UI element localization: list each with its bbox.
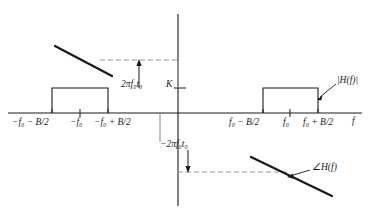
figure-vector-canvas [0,0,372,214]
annotation-negative-phase-value: −2πf₀t₀ [160,140,188,150]
xtick-label-f0-minus-b2: f₀ − B/2 [229,118,259,128]
xtick-label-f0: f₀ [283,118,289,128]
frequency-axis-label: f [352,117,355,127]
xtick-label-f0-plus-b2: f₀ + B/2 [303,118,333,128]
phase-line-negative-frequency [55,46,112,76]
annotation-gain-k: K [166,80,172,90]
leader-line-magnitude-callout [320,84,336,97]
annotation-magnitude-response: |H(f)| [337,76,358,86]
annotation-positive-phase-value: 2πf₀t₀ [121,80,142,90]
xtick-label-neg-f0-minus-b2: −f₀ − B/2 [12,118,49,128]
xtick-label-neg-f0-plus-b2: −f₀ + B/2 [94,118,131,128]
filter-response-figure: −f₀ − B/2 −f₀ −f₀ + B/2 f₀ − B/2 f₀ f₀ +… [0,0,372,214]
annotation-phase-response: ∠H(f) [312,163,337,173]
xtick-label-neg-f0: −f₀ [70,118,82,128]
